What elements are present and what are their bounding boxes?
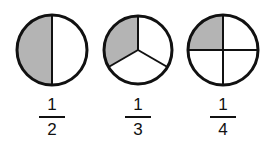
fraction-bar [210,116,236,118]
denominator: 3 [123,121,153,138]
fraction-bar [125,116,151,118]
denominator: 4 [208,121,238,138]
fraction-label-third: 1 3 [123,96,153,138]
numerator: 1 [37,96,67,113]
numerator: 1 [208,96,238,113]
fraction-bar [39,116,65,118]
fraction-label-quarter: 1 4 [208,96,238,138]
denominator: 2 [37,121,67,138]
circle-one-half [17,15,87,85]
fraction-label-half: 1 2 [37,96,67,138]
circle-one-quarter [188,15,258,85]
numerator: 1 [123,96,153,113]
circle-one-third [104,16,172,84]
